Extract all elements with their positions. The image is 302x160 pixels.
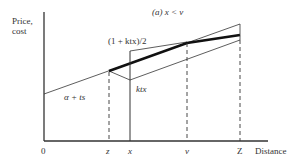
avg-curve-label: (1 + ktx)/2 bbox=[108, 36, 147, 46]
panel-title: (a) x < v bbox=[152, 7, 183, 17]
y-axis-label: Price, cost bbox=[12, 16, 33, 36]
tick-label-origin: 0 bbox=[41, 146, 46, 156]
diagram-canvas bbox=[0, 0, 302, 160]
tick-label-x: x bbox=[128, 146, 132, 156]
x-axis-label: Distance bbox=[255, 146, 287, 156]
tick-label-v: v bbox=[185, 146, 189, 156]
tick-label-z: z bbox=[106, 146, 110, 156]
ktx-line bbox=[109, 40, 240, 80]
ktx-curve-label: ktx bbox=[136, 84, 147, 94]
y-axis-label-line2: cost bbox=[12, 26, 33, 36]
transport-curve-label: α + ts bbox=[64, 92, 85, 102]
tick-label-Z: Z bbox=[237, 146, 243, 156]
y-axis-label-line1: Price, bbox=[12, 16, 33, 26]
